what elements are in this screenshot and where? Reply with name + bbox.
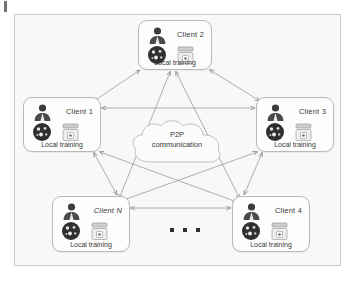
node-caption: Local training xyxy=(139,59,211,66)
node-caption: Local training xyxy=(24,141,100,148)
data-circle-icon xyxy=(32,122,52,142)
node-client-2[interactable]: Client 2 Local training xyxy=(138,20,212,70)
more-clients-ellipsis xyxy=(155,225,215,235)
cloud-label-line1: P2P xyxy=(128,130,226,140)
data-circle-icon xyxy=(61,221,81,241)
data-circle-icon xyxy=(241,221,261,241)
node-title: Client 3 xyxy=(299,107,326,116)
node-caption: Local training xyxy=(257,141,333,148)
data-circle-icon xyxy=(265,122,285,142)
node-client-n[interactable]: Client N Local training xyxy=(52,196,130,252)
server-stack-icon xyxy=(91,222,108,241)
node-client-3[interactable]: Client 3 Local training xyxy=(256,97,334,152)
node-client-4[interactable]: Client 4 Local training xyxy=(232,196,310,252)
cloud-label-line2: communication xyxy=(128,140,226,150)
person-avatar-icon xyxy=(148,26,167,45)
node-title: Client 2 xyxy=(177,30,204,39)
person-avatar-icon xyxy=(33,103,52,122)
node-title: Client N xyxy=(94,206,122,215)
scan-artifact xyxy=(4,1,7,12)
cloud-label: P2P communication xyxy=(128,130,226,150)
person-avatar-icon xyxy=(242,202,261,221)
node-client-1[interactable]: Client 1 Local training xyxy=(23,97,101,152)
ellipsis-dot xyxy=(183,228,187,232)
node-caption: Local training xyxy=(53,241,129,248)
node-title: Client 1 xyxy=(66,107,93,116)
person-avatar-icon xyxy=(266,103,285,122)
diagram-canvas: P2P communication Client 2 Lo xyxy=(0,0,355,281)
node-title: Client 4 xyxy=(275,206,302,215)
server-stack-icon xyxy=(271,222,288,241)
server-stack-icon xyxy=(295,123,312,142)
server-stack-icon xyxy=(62,123,79,142)
ellipsis-dot xyxy=(170,228,174,232)
person-avatar-icon xyxy=(62,202,81,221)
ellipsis-dot xyxy=(196,228,200,232)
node-caption: Local training xyxy=(233,241,309,248)
